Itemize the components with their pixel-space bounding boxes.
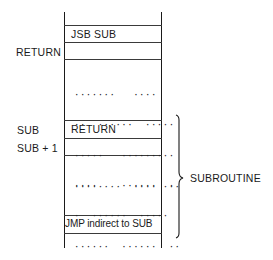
subroutine-brace-icon	[0, 0, 273, 260]
brace-label-subroutine: SUBROUTINE	[190, 172, 261, 184]
